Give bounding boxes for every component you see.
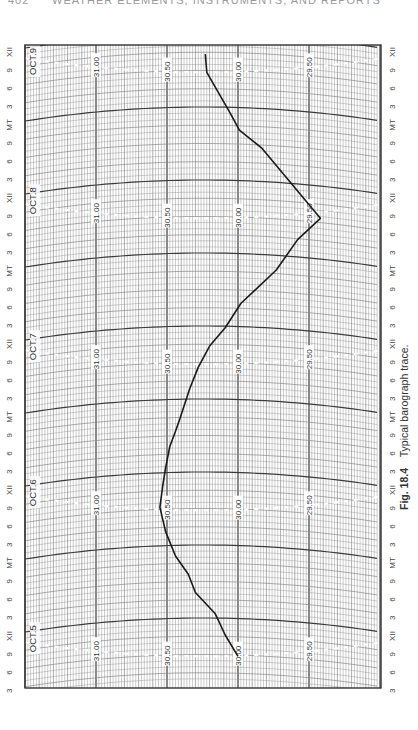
svg-text:XII: XII <box>5 193 14 203</box>
svg-text:6: 6 <box>388 232 397 237</box>
svg-text:3: 3 <box>388 396 397 401</box>
svg-text:XII: XII <box>388 47 397 57</box>
svg-text:XII: XII <box>388 193 397 203</box>
svg-text:30.00: 30.00 <box>234 645 243 666</box>
svg-text:3: 3 <box>388 104 397 109</box>
svg-text:3: 3 <box>5 688 14 693</box>
svg-text:9: 9 <box>388 578 397 583</box>
svg-text:OCT.6: OCT.6 <box>27 479 38 506</box>
svg-text:31.00: 31.00 <box>92 349 101 370</box>
svg-text:9: 9 <box>388 67 397 72</box>
svg-text:30.00: 30.00 <box>234 207 243 228</box>
svg-text:OCT.8: OCT.8 <box>27 187 38 214</box>
svg-text:9: 9 <box>5 213 14 218</box>
svg-text:9: 9 <box>388 359 397 364</box>
svg-text:3: 3 <box>5 615 14 620</box>
svg-text:9: 9 <box>388 432 397 437</box>
svg-text:6: 6 <box>388 670 397 675</box>
svg-text:9: 9 <box>5 359 14 364</box>
svg-text:OCT.9: OCT.9 <box>27 48 38 75</box>
svg-text:XII: XII <box>5 631 14 641</box>
svg-text:3: 3 <box>388 177 397 182</box>
svg-text:6: 6 <box>5 305 14 310</box>
chart-border <box>25 45 381 688</box>
svg-text:3: 3 <box>5 250 14 255</box>
svg-text:9: 9 <box>5 432 14 437</box>
svg-text:MT: MT <box>5 557 14 569</box>
svg-text:29.50: 29.50 <box>305 641 314 662</box>
svg-text:30.50: 30.50 <box>163 353 172 374</box>
svg-text:MT: MT <box>5 411 14 423</box>
svg-text:6: 6 <box>5 597 14 602</box>
svg-text:30.00: 30.00 <box>234 353 243 374</box>
svg-text:3: 3 <box>5 323 14 328</box>
svg-text:9: 9 <box>388 140 397 145</box>
figure-caption: Fig. 18.4 Typical barograph trace. <box>398 345 410 510</box>
svg-text:30.50: 30.50 <box>163 645 172 666</box>
barograph-chart: OCT.5OCT.6OCT.7OCT.8OCT.9 31.0030.5030.0… <box>0 0 418 730</box>
svg-text:29.50: 29.50 <box>305 57 314 78</box>
svg-text:6: 6 <box>388 86 397 91</box>
svg-text:9: 9 <box>5 578 14 583</box>
caption-text: Typical barograph trace. <box>398 345 410 458</box>
svg-text:9: 9 <box>5 286 14 291</box>
svg-text:MT: MT <box>388 411 397 423</box>
svg-text:XII: XII <box>388 631 397 641</box>
svg-text:XII: XII <box>5 485 14 495</box>
svg-text:6: 6 <box>388 524 397 529</box>
svg-text:9: 9 <box>388 505 397 510</box>
svg-text:3: 3 <box>388 469 397 474</box>
svg-text:XII: XII <box>5 339 14 349</box>
svg-text:MT: MT <box>388 119 397 131</box>
svg-text:3: 3 <box>388 688 397 693</box>
svg-text:30.50: 30.50 <box>163 499 172 520</box>
svg-text:XII: XII <box>5 47 14 57</box>
svg-text:6: 6 <box>388 305 397 310</box>
svg-text:3: 3 <box>388 323 397 328</box>
svg-text:3: 3 <box>5 469 14 474</box>
figure-number: Fig. 18.4 <box>398 468 410 510</box>
svg-text:6: 6 <box>5 378 14 383</box>
svg-text:3: 3 <box>5 396 14 401</box>
svg-text:XII: XII <box>388 485 397 495</box>
svg-text:3: 3 <box>5 542 14 547</box>
svg-text:3: 3 <box>388 250 397 255</box>
svg-text:6: 6 <box>5 451 14 456</box>
svg-text:6: 6 <box>388 597 397 602</box>
svg-text:MT: MT <box>5 265 14 277</box>
svg-text:3: 3 <box>388 615 397 620</box>
svg-text:6: 6 <box>388 378 397 383</box>
svg-text:MT: MT <box>5 119 14 131</box>
svg-text:6: 6 <box>388 159 397 164</box>
svg-text:9: 9 <box>5 651 14 656</box>
svg-text:6: 6 <box>5 159 14 164</box>
svg-text:31.00: 31.00 <box>92 203 101 224</box>
svg-text:9: 9 <box>5 505 14 510</box>
svg-text:6: 6 <box>388 451 397 456</box>
svg-text:OCT.5: OCT.5 <box>27 625 38 652</box>
svg-text:6: 6 <box>5 524 14 529</box>
svg-text:6: 6 <box>5 86 14 91</box>
svg-text:31.00: 31.00 <box>92 495 101 516</box>
svg-text:3: 3 <box>5 177 14 182</box>
svg-text:6: 6 <box>5 670 14 675</box>
svg-text:29.50: 29.50 <box>305 495 314 516</box>
svg-text:30.00: 30.00 <box>234 499 243 520</box>
svg-text:29.50: 29.50 <box>305 349 314 370</box>
svg-text:MT: MT <box>388 265 397 277</box>
svg-text:XII: XII <box>388 339 397 349</box>
svg-text:31.00: 31.00 <box>92 641 101 662</box>
svg-text:30.00: 30.00 <box>234 61 243 82</box>
svg-text:3: 3 <box>5 104 14 109</box>
svg-text:31.00: 31.00 <box>92 57 101 78</box>
svg-text:9: 9 <box>5 67 14 72</box>
svg-text:9: 9 <box>388 213 397 218</box>
svg-text:30.50: 30.50 <box>163 207 172 228</box>
svg-text:9: 9 <box>388 651 397 656</box>
svg-text:6: 6 <box>5 232 14 237</box>
svg-text:MT: MT <box>388 557 397 569</box>
svg-text:OCT.7: OCT.7 <box>27 333 38 360</box>
svg-text:3: 3 <box>388 542 397 547</box>
svg-text:30.50: 30.50 <box>163 61 172 82</box>
svg-text:9: 9 <box>388 286 397 291</box>
